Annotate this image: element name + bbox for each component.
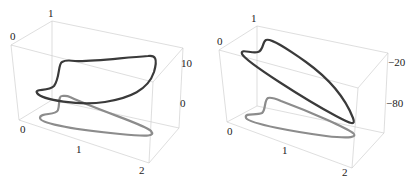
x-tick-1: 1 xyxy=(76,143,82,155)
y-tick-0: 0 xyxy=(217,35,223,47)
y-tick-0: 0 xyxy=(10,30,16,42)
projection-curve xyxy=(40,96,152,136)
x-tick-0: 0 xyxy=(20,123,26,135)
y-tick-1: 1 xyxy=(48,7,54,19)
x-tick-2: 2 xyxy=(139,164,145,176)
3d-curve xyxy=(37,56,156,103)
z-tick-0: 0 xyxy=(180,97,186,109)
plot-right: 1 0 0 1 2 −20 −80 xyxy=(206,0,413,179)
3d-curve xyxy=(242,40,354,123)
z-tick-minus20: −20 xyxy=(388,56,406,68)
y-tick-1: 1 xyxy=(251,12,257,24)
z-tick-minus80: −80 xyxy=(386,97,404,109)
x-tick-2: 2 xyxy=(342,166,348,178)
z-tick-10: 10 xyxy=(181,57,193,69)
x-tick-0: 0 xyxy=(227,125,233,137)
plot-left: 1 0 0 1 2 10 0 xyxy=(0,0,206,179)
x-tick-1: 1 xyxy=(282,144,288,156)
